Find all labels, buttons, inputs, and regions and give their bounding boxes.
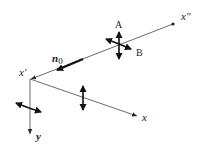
horizontal-polarization-arrow-right [29,108,41,112]
polarization-b-arrow-right [119,44,131,49]
label-n0: n0 [52,52,63,66]
label-x-axis: x [141,111,147,123]
polarization-diagram: x″ A B n0 x′ x y [0,0,205,150]
label-x-double-prime: x″ [180,10,191,22]
horizontal-polarization-arrow-left [16,103,29,108]
diagram-canvas: x″ A B n0 x′ x y [0,0,205,150]
label-a: A [115,19,123,30]
label-b: B [136,47,143,58]
label-x-prime: x′ [18,66,27,78]
polarization-b-arrow [106,39,119,44]
label-n0-subscript: 0 [58,56,63,66]
label-y-axis: y [34,130,41,142]
source-point-x-double-prime [171,22,174,25]
